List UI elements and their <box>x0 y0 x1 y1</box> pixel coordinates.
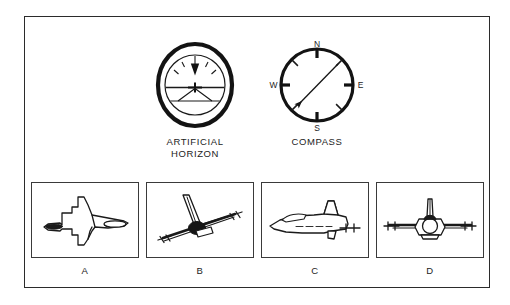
artificial-horizon-instrument: ARTIFICIAL HORIZON <box>135 35 255 159</box>
aircraft-d-left-wingtip-missile <box>384 222 399 230</box>
aircraft-front-view-svg <box>377 183 483 257</box>
panel-b-image[interactable] <box>146 182 254 258</box>
aircraft-d-intake <box>423 219 438 234</box>
compass-label-east: E <box>358 80 364 90</box>
compass-gauge: N E S W <box>257 35 377 135</box>
artificial-horizon-svg <box>135 35 255 135</box>
answer-option-d[interactable]: D <box>376 182 484 276</box>
compass-label-south: S <box>314 123 320 133</box>
panel-a-label: A <box>31 265 139 276</box>
answer-option-c[interactable]: C <box>261 182 369 276</box>
aircraft-a-wingtip-pod <box>104 221 126 227</box>
aircraft-rear-banked-svg <box>147 183 253 257</box>
panel-a-image[interactable] <box>31 182 139 258</box>
aircraft-a-nose-shadow <box>46 224 63 229</box>
aircraft-b-stabiliser <box>202 217 225 224</box>
aircraft-d-lower-fuselage <box>421 235 439 239</box>
answer-option-b[interactable]: B <box>146 182 254 276</box>
aircraft-c-fuselage <box>270 201 348 233</box>
compass-label: COMPASS <box>257 136 377 148</box>
panel-b-label: B <box>146 265 254 276</box>
compass-instrument: N E S W COMPASS <box>257 35 377 148</box>
aircraft-c-vertical-fin <box>324 201 338 215</box>
compass-label-west: W <box>269 80 277 90</box>
aircraft-d-canopy <box>424 215 436 219</box>
panel-d-image[interactable] <box>376 182 484 258</box>
panel-c-label: C <box>261 265 369 276</box>
answer-panels-row: A <box>25 182 489 287</box>
instruments-row: ARTIFICIAL HORIZON <box>25 17 489 177</box>
compass-label-north: N <box>314 39 320 49</box>
artificial-horizon-label: ARTIFICIAL HORIZON <box>135 136 255 159</box>
panel-c-image[interactable] <box>261 182 369 258</box>
artificial-horizon-gauge <box>135 35 255 135</box>
aircraft-top-view-svg <box>32 183 138 257</box>
aircraft-d-right-wingtip-missile <box>461 222 476 230</box>
aircraft-side-view-svg <box>262 183 368 257</box>
figure-frame: ARTIFICIAL HORIZON <box>24 16 490 288</box>
answer-option-a[interactable]: A <box>31 182 139 276</box>
panel-d-label: D <box>376 265 484 276</box>
compass-svg: N E S W <box>257 35 377 135</box>
aircraft-c-ventral-fin <box>328 231 336 239</box>
